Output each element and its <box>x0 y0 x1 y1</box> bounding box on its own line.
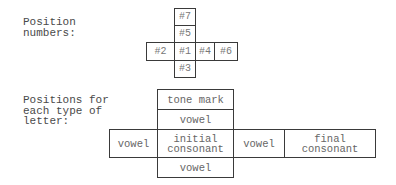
cell-text: consonant <box>167 144 224 154</box>
cell-left-vowel: vowel <box>109 129 158 158</box>
cell-text: final <box>314 134 346 144</box>
cell-final-consonant: final consonant <box>284 129 376 158</box>
label-line: letter: <box>23 115 69 127</box>
cell-text: #2 <box>154 47 166 57</box>
cell-text: vowel <box>180 115 212 125</box>
cell-text: #6 <box>220 47 232 57</box>
cell-position-1: #1 <box>174 42 196 61</box>
cell-text: #1 <box>179 47 191 57</box>
letter-positions-label: Positions for each type of letter: <box>23 95 109 127</box>
cell-text: #5 <box>179 29 191 39</box>
cell-text: tone mark <box>167 95 224 105</box>
cell-position-3: #3 <box>174 60 196 78</box>
cell-text: #3 <box>179 64 191 74</box>
cell-text: #4 <box>199 47 211 57</box>
cell-lower-vowel: vowel <box>157 157 234 178</box>
cell-position-4: #4 <box>195 42 215 61</box>
cell-position-2: #2 <box>146 42 175 61</box>
cell-position-6: #6 <box>214 42 238 61</box>
cell-position-7: #7 <box>174 8 196 26</box>
cell-position-5: #5 <box>174 25 196 43</box>
cell-tone-mark: tone mark <box>157 89 234 110</box>
cell-text: consonant <box>302 144 359 154</box>
cell-text: vowel <box>243 139 275 149</box>
cell-right-vowel: vowel <box>233 129 285 158</box>
cell-text: #7 <box>179 12 191 22</box>
cell-text: vowel <box>180 163 212 173</box>
position-numbers-label: Position numbers: <box>23 17 76 38</box>
cell-text: vowel <box>118 139 150 149</box>
label-line: numbers: <box>23 27 76 39</box>
cell-initial-consonant: initial consonant <box>157 129 234 158</box>
cell-upper-vowel: vowel <box>157 109 234 130</box>
cell-text: initial <box>173 134 217 144</box>
